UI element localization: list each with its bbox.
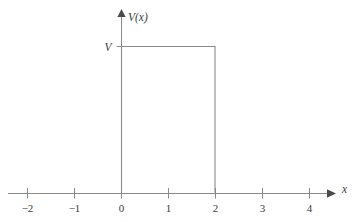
x-axis-label: x: [341, 183, 348, 195]
y-axis-arrow-icon: [117, 9, 125, 17]
x-tick-label-minus2: −2: [22, 202, 34, 214]
x-tick-label-1: 1: [166, 202, 172, 214]
x-tick-label-4: 4: [307, 202, 313, 214]
plot-canvas: −2 −1 0 1 2 3 4 x V V(x): [0, 0, 359, 222]
x-axis-arrow-icon: [327, 189, 336, 198]
potential-barrier-figure: −2 −1 0 1 2 3 4 x V V(x): [0, 0, 359, 222]
y-axis-label: V(x): [128, 11, 148, 24]
x-tick-label-0: 0: [119, 202, 125, 214]
x-tick-label-3: 3: [260, 202, 266, 214]
x-tick-label-2: 2: [213, 202, 219, 214]
x-tick-label-minus1: −1: [69, 202, 81, 214]
y-tick-label-V: V: [104, 41, 113, 53]
